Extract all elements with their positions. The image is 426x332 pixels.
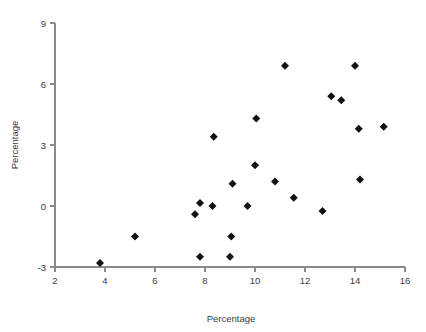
x-tick-label: 14 xyxy=(350,275,361,286)
data-point-marker xyxy=(319,207,327,215)
data-point-marker xyxy=(227,233,235,241)
x-tick-label: 16 xyxy=(400,275,411,286)
data-point-marker xyxy=(351,62,359,70)
data-point-marker xyxy=(196,253,204,261)
y-tick-label: 3 xyxy=(41,140,46,151)
x-tick-label: 4 xyxy=(102,275,107,286)
data-point-marker xyxy=(209,202,217,210)
x-tick-label: 8 xyxy=(202,275,207,286)
y-tick-label: 9 xyxy=(41,18,46,29)
x-axis-title: Percentage xyxy=(207,313,256,324)
x-tick-label: 10 xyxy=(250,275,261,286)
data-point-marker xyxy=(251,161,259,169)
data-point-marker xyxy=(210,133,218,141)
data-point-marker xyxy=(229,180,237,188)
y-tick-label: 0 xyxy=(41,201,46,212)
y-axis-title: Percentage xyxy=(9,121,20,170)
data-point-marker xyxy=(131,233,139,241)
y-tick-label: -3 xyxy=(38,262,46,273)
y-tick-label: 6 xyxy=(41,79,46,90)
datapoints-layer xyxy=(96,62,388,267)
data-point-marker xyxy=(337,96,345,104)
data-point-marker xyxy=(96,259,104,267)
scatter-plot-figure: 246810121416-30369 Percentage Percentage xyxy=(0,0,426,332)
x-tick-label: 12 xyxy=(300,275,311,286)
axes-layer xyxy=(55,23,405,267)
data-point-marker xyxy=(290,194,298,202)
data-point-marker xyxy=(356,176,364,184)
x-tick-label: 2 xyxy=(52,275,57,286)
data-point-marker xyxy=(271,178,279,186)
data-point-marker xyxy=(281,62,289,70)
data-point-marker xyxy=(196,199,204,207)
data-point-marker xyxy=(244,202,252,210)
data-point-marker xyxy=(252,115,260,123)
data-point-marker xyxy=(355,125,363,133)
data-point-marker xyxy=(226,253,234,261)
x-tick-label: 6 xyxy=(152,275,157,286)
data-point-marker xyxy=(327,92,335,100)
data-point-marker xyxy=(380,123,388,131)
data-point-marker xyxy=(191,210,199,218)
ticks-layer: 246810121416-30369 xyxy=(38,18,411,287)
plot-canvas: 246810121416-30369 Percentage Percentage xyxy=(0,0,426,332)
